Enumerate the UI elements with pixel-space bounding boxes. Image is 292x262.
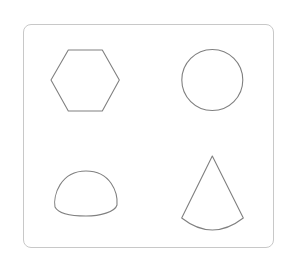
circle-shape: [182, 50, 243, 111]
hexagon-shape: [51, 50, 119, 111]
hemisphere-shape: [55, 171, 117, 216]
cone-shape: [182, 156, 244, 230]
shapes-canvas: [0, 0, 292, 262]
